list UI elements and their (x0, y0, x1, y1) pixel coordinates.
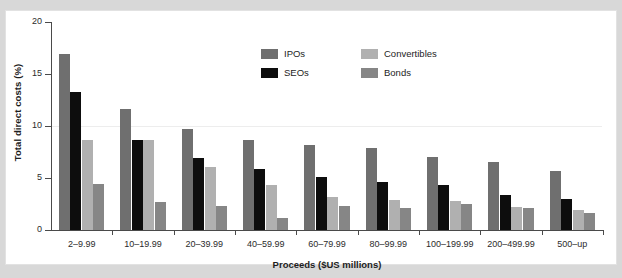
bar-seos-4 (316, 177, 327, 230)
bar-bonds-0 (93, 184, 104, 230)
x-tick-mark (480, 230, 481, 235)
bar-ipos-8 (550, 171, 561, 230)
figure-card: Total direct costs (%) Proceeds ($US mil… (6, 11, 616, 264)
bar-seos-2 (193, 158, 204, 230)
bar-convertibles-8 (573, 210, 584, 230)
legend-swatch-bonds (361, 68, 378, 78)
bar-seos-3 (254, 169, 265, 230)
bar-bonds-8 (584, 213, 595, 230)
bar-ipos-5 (366, 148, 377, 230)
y-tick-label-text: 0 (8, 225, 42, 234)
bar-ipos-6 (427, 157, 438, 230)
legend-label-ipos: IPOs (284, 48, 305, 60)
bar-bonds-4 (339, 206, 350, 230)
x-tick-mark (235, 230, 236, 235)
x-tick-mark (603, 230, 604, 235)
bar-bonds-1 (155, 202, 166, 230)
bar-ipos-3 (243, 140, 254, 230)
bar-seos-7 (500, 195, 511, 230)
x-tick-mark (112, 230, 113, 235)
bar-convertibles-3 (266, 185, 277, 230)
bar-convertibles-4 (327, 197, 338, 230)
y-tick-label: 20 (6, 17, 42, 26)
y-tick-label: 0 (6, 225, 42, 234)
bar-bonds-2 (216, 206, 227, 230)
bar-convertibles-6 (450, 201, 461, 230)
legend-label-bonds: Bonds (384, 67, 411, 79)
x-tick-mark (419, 230, 420, 235)
legend-label-convertibles: Convertibles (384, 48, 437, 60)
bar-bonds-7 (523, 208, 534, 230)
bar-bonds-6 (461, 204, 472, 230)
bar-bonds-3 (277, 218, 288, 230)
bar-seos-8 (561, 199, 572, 230)
bar-ipos-2 (182, 129, 193, 230)
bar-seos-6 (438, 185, 449, 230)
bar-convertibles-5 (389, 200, 400, 230)
bar-ipos-7 (488, 162, 499, 230)
x-tick-mark (542, 230, 543, 235)
bar-ipos-0 (59, 54, 70, 230)
bar-convertibles-2 (205, 167, 216, 230)
y-tick-label: 15 (6, 69, 42, 78)
legend-label-seos: SEOs (284, 67, 309, 79)
legend-swatch-convertibles (361, 49, 378, 59)
bar-seos-1 (132, 140, 143, 230)
x-tick-mark (296, 230, 297, 235)
legend-swatch-ipos (261, 49, 278, 59)
x-tick-mark (174, 230, 175, 235)
x-axis-title: Proceeds ($US millions) (51, 259, 603, 270)
legend-swatch-seos (261, 68, 278, 78)
y-tick-label-text: 5 (8, 173, 42, 182)
bar-ipos-1 (120, 109, 131, 230)
bar-seos-0 (70, 92, 81, 230)
bar-convertibles-7 (511, 207, 522, 230)
gridline-10 (52, 126, 602, 127)
y-tick-label: 10 (6, 121, 42, 130)
bar-convertibles-0 (82, 140, 93, 230)
x-category-label-8: 500–up (532, 239, 612, 249)
y-tick-label-text: 20 (8, 17, 42, 26)
y-tick-label: 5 (6, 173, 42, 182)
bar-bonds-5 (400, 208, 411, 230)
screenshot-page: Total direct costs (%) Proceeds ($US mil… (0, 0, 622, 278)
y-tick-label-text: 10 (8, 121, 42, 130)
chart-legend: IPOsSEOsConvertiblesBonds (261, 48, 491, 86)
y-axis-line (51, 22, 52, 230)
bar-seos-5 (377, 182, 388, 230)
bar-convertibles-1 (143, 140, 154, 230)
x-axis-line (51, 230, 603, 231)
y-tick-label-text: 15 (8, 69, 42, 78)
x-tick-mark (358, 230, 359, 235)
y-axis-title: Total direct costs (%) (12, 28, 23, 198)
bar-ipos-4 (304, 145, 315, 230)
